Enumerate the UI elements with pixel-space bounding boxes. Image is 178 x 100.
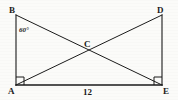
right-angle-marker-e xyxy=(154,77,162,85)
angle-label-b: 60° xyxy=(19,27,29,34)
geometry-figure: B D A E C 60° 12 xyxy=(0,0,178,100)
figure-canvas xyxy=(0,0,178,100)
base-length-label: 12 xyxy=(83,88,92,97)
vertex-label-c: C xyxy=(84,40,91,49)
vertex-label-e: E xyxy=(163,87,169,96)
vertex-label-b: B xyxy=(9,6,15,15)
right-angle-marker-a xyxy=(16,77,24,85)
vertex-label-d: D xyxy=(157,6,164,15)
vertex-label-a: A xyxy=(8,87,15,96)
